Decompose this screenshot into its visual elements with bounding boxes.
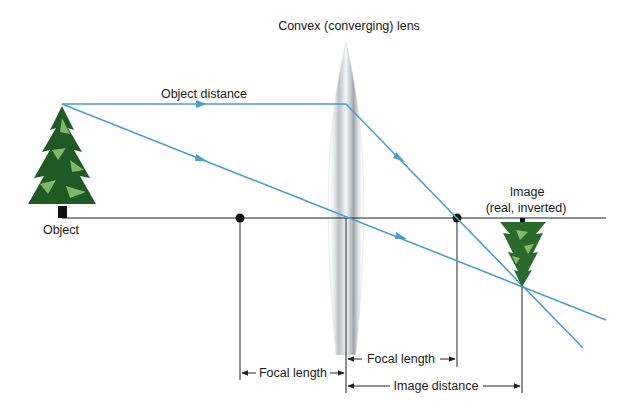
lens-diagram: Convex (converging) lens Object distance… bbox=[0, 0, 626, 420]
object-label: Object bbox=[43, 223, 80, 237]
focal-length-left-label: Focal length bbox=[259, 366, 327, 380]
image-sublabel: (real, inverted) bbox=[486, 201, 567, 215]
ray-parallel-arrow-1 bbox=[196, 100, 207, 108]
image-label: Image bbox=[510, 185, 545, 199]
object-tree-icon bbox=[28, 106, 96, 218]
lens-title: Convex (converging) lens bbox=[278, 19, 420, 33]
object-distance-label: Object distance bbox=[161, 87, 247, 101]
image-tree-icon bbox=[500, 218, 546, 287]
ray-central-arrow-2 bbox=[395, 232, 407, 239]
ray-central-arrow-1 bbox=[195, 154, 207, 161]
focal-point-left bbox=[236, 214, 245, 223]
focal-length-right-label: Focal length bbox=[367, 352, 435, 366]
image-distance-label: Image distance bbox=[394, 379, 479, 393]
